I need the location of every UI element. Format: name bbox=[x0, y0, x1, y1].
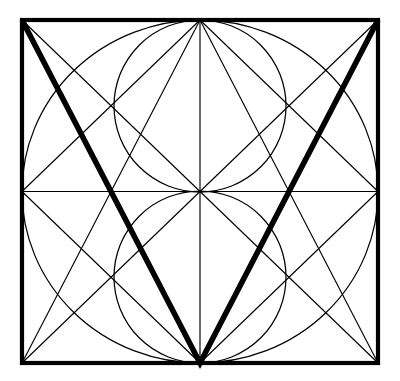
figure-root bbox=[0, 0, 400, 381]
geometry-canvas bbox=[0, 0, 400, 381]
